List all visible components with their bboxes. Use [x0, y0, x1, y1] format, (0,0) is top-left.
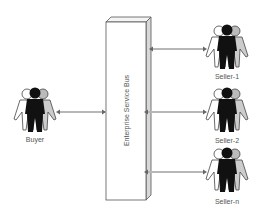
seller-1-label: Seller-1 — [202, 73, 252, 80]
seller-n-people-icon — [206, 148, 248, 193]
seller-n-label: Seller-n — [202, 198, 252, 205]
seller-2-label: Seller-2 — [202, 137, 252, 144]
buyer-label: Buyer — [10, 136, 60, 143]
diagram-canvas — [0, 0, 264, 217]
bus-label: Enterprise Service Bus — [123, 73, 130, 149]
seller-2-people-icon — [206, 88, 248, 133]
connector-seller-2 — [144, 110, 207, 115]
connector-seller-1 — [149, 47, 207, 52]
buyer-people-icon — [14, 88, 56, 133]
connector-seller-n — [144, 170, 207, 175]
connector-buyer — [56, 110, 106, 115]
seller-1-people-icon — [206, 25, 248, 70]
